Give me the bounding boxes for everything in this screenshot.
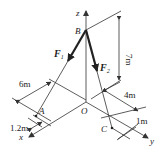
x-axis-label: x [18,132,23,142]
dim-6m-label: 6m [19,79,31,89]
force-diagram: z x y B A C O F1 F2 7m 6m 1.2m 4m 1m [0,0,164,154]
c-ref-line-top [105,82,120,90]
dim-4m-label: 4m [124,90,136,100]
point-b-label: B [75,26,81,36]
point-c [111,127,114,130]
point-c-label: C [101,124,108,134]
dim-1-2m-arrow [32,122,42,128]
force-f2-label: F2 [99,62,110,74]
dim-1-2m-label: 1.2m [10,123,28,133]
dim-1m-label: 1m [136,116,148,126]
origin-label: O [81,106,88,116]
z-axis-label: z [75,8,80,18]
point-a [35,115,38,118]
force-f2-arrow [86,30,97,71]
y-axis-label: y [149,136,154,146]
diagram-svg: z x y B A C O F1 F2 7m 6m 1.2m 4m 1m [0,0,164,154]
height-reference-line [86,11,121,30]
dim-7m-label: 7m [124,54,134,66]
point-a-label: A [38,106,45,116]
a-ref-line [49,79,86,100]
force-f1-label: F1 [53,48,64,60]
x-axis [29,102,86,137]
a-parallel-line [12,98,51,121]
